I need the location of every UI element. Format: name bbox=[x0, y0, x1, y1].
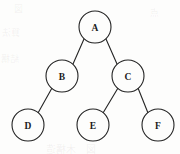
tree-edge-c-f bbox=[138, 88, 148, 113]
node-label-b: B bbox=[59, 72, 66, 82]
node-label-f: F bbox=[155, 121, 161, 131]
tree-node-b: B bbox=[46, 60, 78, 92]
node-label-e: E bbox=[90, 121, 96, 131]
tree-diagram-figure: 図 算法 結構 点 図 木構造 ABCDEF bbox=[0, 0, 180, 154]
tree-node-d: D bbox=[12, 109, 44, 141]
node-label-d: D bbox=[25, 121, 32, 131]
tree-edge-c-e bbox=[103, 88, 118, 113]
tree-edge-a-c bbox=[106, 39, 117, 64]
node-label-a: A bbox=[92, 23, 99, 33]
tree-node-f: F bbox=[142, 109, 174, 141]
nodes-group: ABCDEF bbox=[12, 11, 174, 141]
tree-edge-b-d bbox=[38, 88, 52, 113]
tree-node-e: E bbox=[77, 109, 109, 141]
node-label-c: C bbox=[125, 72, 132, 82]
tree-node-c: C bbox=[112, 60, 144, 92]
tree-edge-a-b bbox=[73, 39, 84, 64]
tree-graphic: ABCDEF bbox=[0, 0, 180, 154]
tree-node-a: A bbox=[79, 11, 111, 43]
